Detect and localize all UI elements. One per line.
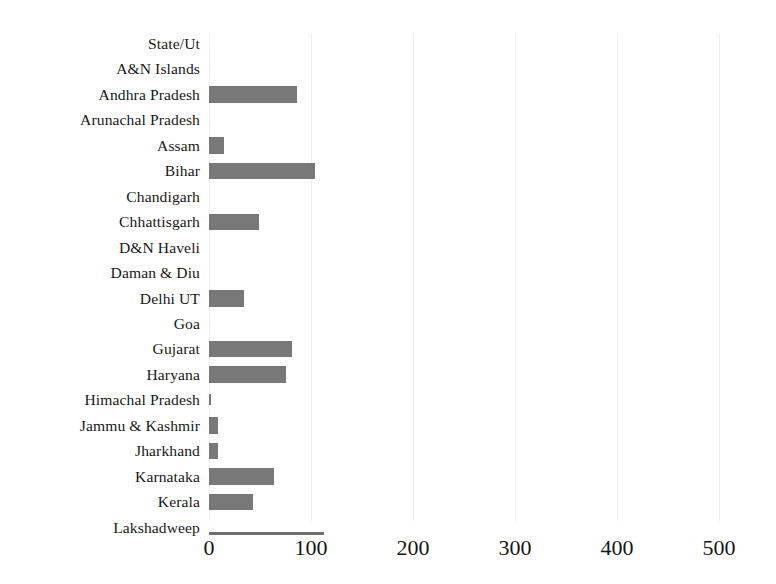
bar-row: Andhra Pradesh [0, 82, 776, 107]
bar-gujarat [209, 341, 292, 358]
bar-row: State/Ut [0, 31, 776, 56]
category-label-d-n-haveli: D&N Haveli [0, 235, 200, 260]
bar-chart: State/UtA&N IslandsAndhra PradeshArunach… [0, 0, 776, 584]
bar-karnataka [209, 468, 274, 485]
bar-row: Jammu & Kashmir [0, 413, 776, 438]
plot-area: State/UtA&N IslandsAndhra PradeshArunach… [0, 0, 776, 584]
x-tick-label-500: 500 [679, 534, 759, 562]
category-label-gujarat: Gujarat [0, 336, 200, 361]
bar-jammu-kashmir [209, 417, 218, 434]
category-label-daman-diu: Daman & Diu [0, 260, 200, 285]
bar-row: Chandigarh [0, 184, 776, 209]
bar-row: Arunachal Pradesh [0, 107, 776, 132]
bar-assam [209, 137, 224, 154]
category-label-jharkhand: Jharkhand [0, 438, 200, 463]
bar-delhi-ut [209, 290, 244, 307]
category-label-chhattisgarh: Chhattisgarh [0, 209, 200, 234]
category-label-bihar: Bihar [0, 158, 200, 183]
category-label-himachal-pradesh: Himachal Pradesh [0, 387, 200, 412]
bar-row: Karnataka [0, 464, 776, 489]
category-label-delhi-ut: Delhi UT [0, 286, 200, 311]
category-label-state-ut: State/Ut [0, 31, 200, 56]
bar-haryana [209, 366, 286, 383]
bar-row: Gujarat [0, 336, 776, 361]
category-label-jammu-kashmir: Jammu & Kashmir [0, 413, 200, 438]
category-label-karnataka: Karnataka [0, 464, 200, 489]
bar-himachal-pradesh [209, 394, 211, 405]
category-label-goa: Goa [0, 311, 200, 336]
x-tick-label-200: 200 [373, 534, 453, 562]
category-label-a-n-islands: A&N Islands [0, 56, 200, 81]
bar-row: Goa [0, 311, 776, 336]
bar-row: Kerala [0, 489, 776, 514]
x-tick-label-0: 0 [169, 534, 249, 562]
bar-row: A&N Islands [0, 56, 776, 81]
bar-row: Delhi UT [0, 286, 776, 311]
bar-row: Daman & Diu [0, 260, 776, 285]
bar-kerala [209, 494, 253, 511]
bar-chhattisgarh [209, 214, 259, 231]
bar-row: D&N Haveli [0, 235, 776, 260]
category-label-assam: Assam [0, 133, 200, 158]
bar-jharkhand [209, 443, 218, 460]
bar-row: Bihar [0, 158, 776, 183]
bar-andhra-pradesh [209, 86, 297, 103]
x-tick-label-100: 100 [271, 534, 351, 562]
bar-row: Chhattisgarh [0, 209, 776, 234]
category-label-haryana: Haryana [0, 362, 200, 387]
x-tick-label-400: 400 [577, 534, 657, 562]
bar-row: Jharkhand [0, 438, 776, 463]
bar-bihar [209, 163, 315, 180]
category-label-arunachal-pradesh: Arunachal Pradesh [0, 107, 200, 132]
x-axis: 0100200300400500 [0, 534, 776, 568]
bar-row: Himachal Pradesh [0, 387, 776, 412]
x-tick-label-300: 300 [475, 534, 555, 562]
category-label-andhra-pradesh: Andhra Pradesh [0, 82, 200, 107]
category-label-chandigarh: Chandigarh [0, 184, 200, 209]
bar-row: Haryana [0, 362, 776, 387]
category-label-kerala: Kerala [0, 489, 200, 514]
bar-row: Assam [0, 133, 776, 158]
